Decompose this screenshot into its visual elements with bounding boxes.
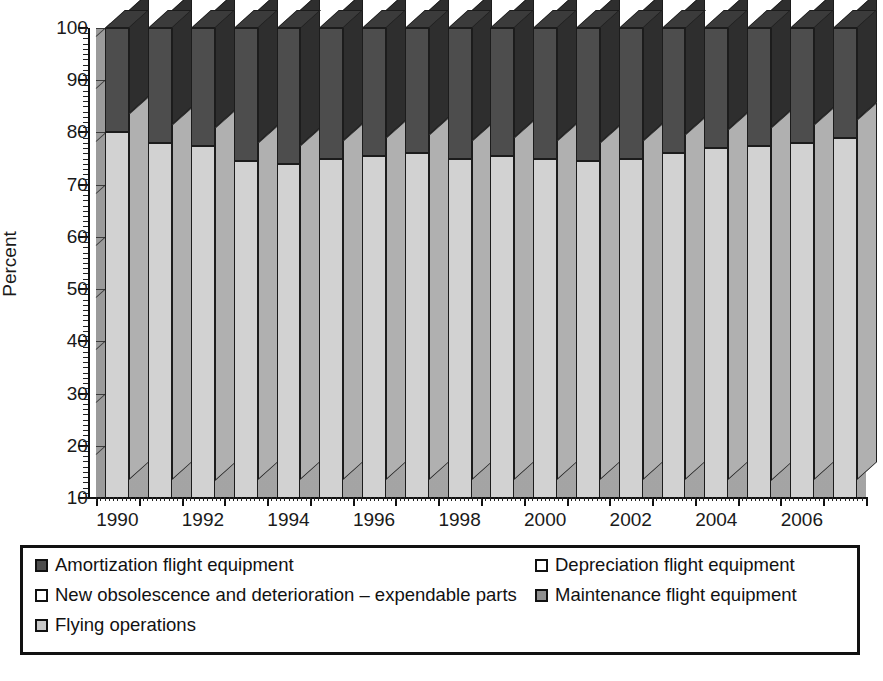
x-minor-tick <box>413 497 414 501</box>
x-minor-tick <box>746 497 747 501</box>
y-minor-tick <box>83 211 88 212</box>
x-minor-tick <box>430 497 431 501</box>
x-minor-tick <box>374 497 375 501</box>
x-minor-tick <box>370 497 371 501</box>
bar-segment <box>747 146 771 499</box>
x-minor-tick <box>592 497 593 501</box>
bar-column[interactable] <box>833 28 857 498</box>
y-minor-tick <box>83 430 88 431</box>
bar-segment <box>362 156 386 498</box>
bar-segment <box>234 161 258 498</box>
x-minor-tick <box>199 497 200 501</box>
bar-segment <box>148 28 172 143</box>
bar-column[interactable] <box>277 28 301 498</box>
x-minor-tick <box>840 497 841 501</box>
x-minor-tick <box>387 497 388 501</box>
x-minor-tick <box>96 497 97 501</box>
x-tick-label: 2006 <box>781 509 823 531</box>
x-minor-tick <box>417 497 418 501</box>
x-minor-tick <box>626 497 627 501</box>
x-minor-tick <box>575 497 576 501</box>
x-tick-label: 1996 <box>353 509 395 531</box>
y-minor-tick <box>83 435 88 436</box>
legend-item-maintenance-flight-equipment[interactable]: Maintenance flight equipment <box>535 586 797 605</box>
y-minor-tick <box>83 493 88 494</box>
y-minor-tick <box>83 54 88 55</box>
x-minor-tick <box>425 497 426 501</box>
x-minor-tick <box>194 497 195 501</box>
x-minor-tick <box>635 497 636 501</box>
bar-column[interactable] <box>576 28 600 498</box>
bar-column[interactable] <box>662 28 686 498</box>
bar-column[interactable] <box>448 28 472 498</box>
y-minor-tick <box>83 446 88 447</box>
y-minor-tick <box>83 132 88 133</box>
x-minor-tick <box>733 497 734 501</box>
x-minor-tick <box>661 497 662 501</box>
bar-column[interactable] <box>319 28 343 498</box>
bar-segment <box>790 28 814 143</box>
y-minor-tick <box>83 383 88 384</box>
legend-item-depreciation-flight-equipment[interactable]: Depreciation flight equipment <box>535 556 795 575</box>
y-minor-tick <box>83 341 88 342</box>
x-minor-tick <box>862 497 863 501</box>
bar-column[interactable] <box>747 28 771 498</box>
x-minor-tick <box>528 497 529 501</box>
bar-column[interactable] <box>105 28 129 498</box>
legend-swatch-icon <box>35 559 48 572</box>
x-minor-tick <box>669 497 670 501</box>
bar-segment <box>405 28 429 153</box>
x-minor-tick <box>708 497 709 501</box>
bar-segment <box>662 153 686 498</box>
bar-column[interactable] <box>704 28 728 498</box>
bar-column[interactable] <box>234 28 258 498</box>
x-minor-tick <box>815 497 816 501</box>
legend-item-amortization-flight-equipment[interactable]: Amortization flight equipment <box>35 556 535 575</box>
x-minor-tick <box>353 497 354 501</box>
legend-item-flying-operations[interactable]: Flying operations <box>35 616 535 635</box>
x-tick-label: 2004 <box>695 509 737 531</box>
bar-segment-side <box>343 123 363 480</box>
x-minor-tick <box>460 497 461 501</box>
y-minor-tick <box>83 373 88 374</box>
x-minor-tick <box>241 497 242 501</box>
y-minor-tick <box>83 70 88 71</box>
x-minor-tick <box>571 497 572 501</box>
x-tick-label: 2002 <box>610 509 652 531</box>
x-minor-tick <box>802 497 803 501</box>
x-minor-tick <box>207 497 208 501</box>
legend-label: Flying operations <box>55 616 196 635</box>
bar-segment-side <box>215 109 235 480</box>
x-minor-tick <box>100 497 101 501</box>
bar-segment <box>405 153 429 498</box>
legend-label: Amortization flight equipment <box>55 556 294 575</box>
bar-segment <box>533 28 557 159</box>
chart-screenshot: Percent 102030405060708090100 1990199219… <box>0 0 883 681</box>
legend-item-new-obsolescence-and-deterioration[interactable]: New obsolescence and deterioration – exp… <box>35 586 535 605</box>
x-minor-tick <box>853 497 854 501</box>
y-minor-tick <box>83 357 88 358</box>
bar-segment-side <box>643 123 663 480</box>
x-minor-tick <box>434 497 435 501</box>
bar-column[interactable] <box>533 28 557 498</box>
y-minor-tick <box>83 226 88 227</box>
bar-segment-side <box>685 117 705 480</box>
bar-column[interactable] <box>790 28 814 498</box>
bar-segment-side <box>300 128 320 480</box>
x-tick-label: 1998 <box>438 509 480 531</box>
bar-column[interactable] <box>362 28 386 498</box>
bar-segment-side <box>129 96 149 480</box>
y-minor-tick <box>83 352 88 353</box>
x-minor-tick <box>186 497 187 501</box>
bar-segment <box>319 28 343 159</box>
bar-column[interactable] <box>490 28 514 498</box>
bar-column[interactable] <box>619 28 643 498</box>
y-minor-tick <box>83 320 88 321</box>
x-minor-tick <box>763 497 764 501</box>
bar-column[interactable] <box>405 28 429 498</box>
x-minor-tick <box>289 497 290 501</box>
bar-column[interactable] <box>191 28 215 498</box>
x-minor-tick <box>468 497 469 501</box>
bar-column[interactable] <box>148 28 172 498</box>
x-minor-tick <box>139 497 140 501</box>
